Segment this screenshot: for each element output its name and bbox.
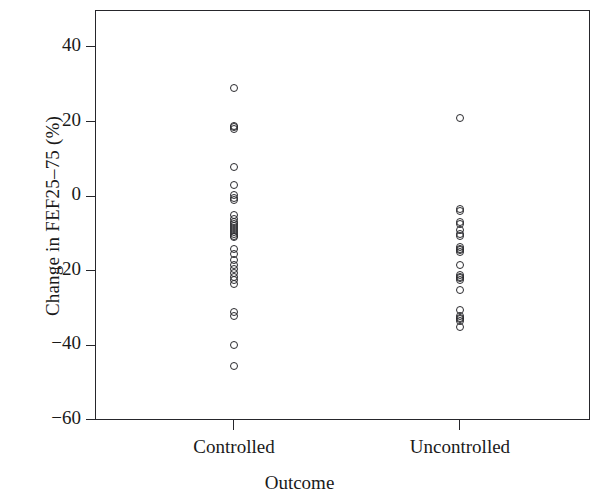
plot-area: [95, 10, 590, 420]
x-tick-label-controlled: Controlled: [124, 436, 344, 458]
y-tick-mark: [86, 121, 95, 122]
y-tick-label: −40: [11, 332, 81, 354]
y-tick-mark: [86, 270, 95, 271]
data-point: [230, 362, 238, 370]
y-tick-label: −20: [11, 258, 81, 280]
y-tick-label: 20: [11, 109, 81, 131]
x-axis-title: Outcome: [0, 472, 599, 494]
scatter-plot-figure: Change in FEF25–75 (%) 40200−20−40−60 Co…: [0, 0, 599, 496]
data-point: [230, 163, 238, 171]
data-point: [456, 323, 464, 331]
x-tick-mark: [233, 420, 234, 430]
data-point: [230, 280, 238, 288]
y-tick-label: −60: [11, 407, 81, 429]
y-tick-mark: [86, 419, 95, 420]
y-tick-mark: [86, 345, 95, 346]
data-point: [456, 286, 464, 294]
y-tick-mark: [86, 46, 95, 47]
y-tick-label: 0: [11, 183, 81, 205]
data-point: [456, 232, 464, 240]
y-tick-mark: [86, 196, 95, 197]
x-tick-mark: [459, 420, 460, 430]
data-point: [230, 312, 238, 320]
x-tick-label-uncontrolled: Uncontrolled: [350, 436, 570, 458]
y-tick-label: 40: [11, 34, 81, 56]
